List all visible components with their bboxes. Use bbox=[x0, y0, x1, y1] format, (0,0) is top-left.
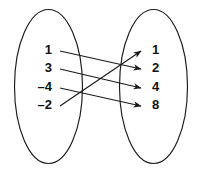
range-element-label: 8 bbox=[152, 97, 159, 112]
mapping-arrow bbox=[60, 88, 141, 106]
mapping-arrow bbox=[60, 51, 141, 69]
range-element-label: 1 bbox=[152, 42, 159, 57]
mapping-arrows bbox=[60, 51, 141, 106]
domain-element-label: 1 bbox=[45, 42, 52, 57]
range-element-label: 2 bbox=[152, 60, 159, 75]
mapping-diagram-figure: 1 3 –4 –2 1 2 4 8 bbox=[0, 0, 202, 173]
diagram-canvas: 1 3 –4 –2 1 2 4 8 bbox=[0, 0, 202, 173]
domain-element-label: –2 bbox=[38, 97, 52, 112]
range-element-label: 4 bbox=[152, 79, 160, 94]
domain-element-label: 3 bbox=[45, 60, 52, 75]
mapping-arrow bbox=[60, 51, 141, 106]
domain-element-label: –4 bbox=[38, 79, 53, 94]
